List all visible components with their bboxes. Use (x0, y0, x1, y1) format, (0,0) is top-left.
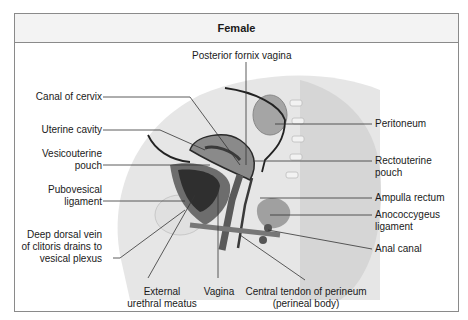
label-canal-of-cervix: Canal of cervix (20, 91, 102, 103)
label-line: pouch (20, 160, 102, 172)
label-line: ligament (375, 221, 440, 233)
label-central-tendon-perineum: Central tendon of perineum (perineal bod… (243, 286, 369, 310)
label-line: Central tendon of perineum (243, 286, 369, 298)
label-pubovesical-ligament: Pubovesical ligament (20, 184, 102, 208)
label-uterine-cavity: Uterine cavity (20, 124, 102, 136)
label-deep-dorsal-vein: Deep dorsal vein of clitoris drains to v… (10, 229, 102, 265)
label-line: (perineal body) (243, 298, 369, 310)
label-anococcygeus-ligament: Anococcygeus ligament (375, 209, 440, 233)
label-vagina: Vagina (202, 286, 236, 298)
label-line: of clitoris drains to (10, 241, 102, 253)
label-line: pouch (375, 167, 432, 179)
label-vesicouterine-pouch: Vesicouterine pouch (20, 148, 102, 172)
label-line: ligament (20, 196, 102, 208)
label-external-urethral-meatus: External urethral meatus (126, 286, 198, 310)
label-line: Pubovesical (20, 184, 102, 196)
label-posterior-fornix-vagina: Posterior fornix vagina (192, 50, 292, 62)
label-line: urethral meatus (126, 298, 198, 310)
label-line: vesical plexus (10, 253, 102, 265)
label-peritoneum: Peritoneum (375, 118, 426, 130)
label-line: External (126, 286, 198, 298)
label-line: Anococcygeus (375, 209, 440, 221)
label-line: Vesicouterine (20, 148, 102, 160)
label-anal-canal: Anal canal (375, 243, 422, 255)
label-ampulla-rectum: Ampulla rectum (375, 192, 444, 204)
label-line: Rectouterine (375, 155, 432, 167)
label-rectouterine-pouch: Rectouterine pouch (375, 155, 432, 179)
label-line: Deep dorsal vein (10, 229, 102, 241)
